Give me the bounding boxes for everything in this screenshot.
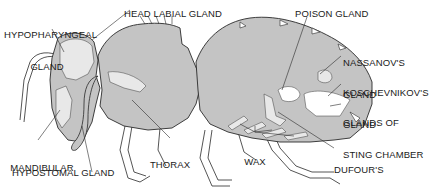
label-line: GLANDS <box>228 189 282 192</box>
label-line: THORAX <box>146 160 194 171</box>
label-line: GLANDS OF <box>343 118 423 129</box>
label-dufour-gland: DUFOUR'S GLAND <box>334 144 384 191</box>
label-poison-gland: POISON GLAND <box>295 9 369 20</box>
label-line: GLAND <box>4 62 90 73</box>
label-wax-glands: WAX GLANDS <box>228 136 282 191</box>
bee-gland-diagram: HYPOPHARYNGEAL GLAND HEAD LABIAL GLAND P… <box>0 0 436 191</box>
label-hypostomal-gland: HYPOSTOMAL GLAND <box>12 168 114 179</box>
label-line: DUFOUR'S <box>334 165 384 176</box>
label-line: WAX <box>228 157 282 168</box>
label-line: HYPOPHARYNGEAL <box>4 30 90 41</box>
nassanov-gland-shape <box>318 70 332 83</box>
label-thorax-labial-gland: THORAX LABIAL GLAND <box>146 139 194 191</box>
label-hypopharyngeal-gland: HYPOPHARYNGEAL GLAND <box>4 9 90 93</box>
middle-leg <box>200 130 230 186</box>
label-head-labial-gland: HEAD LABIAL GLAND <box>124 9 222 20</box>
